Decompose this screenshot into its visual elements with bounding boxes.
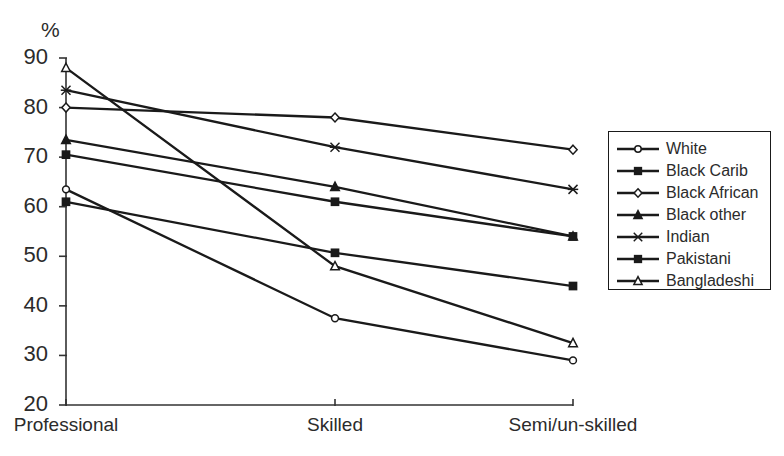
legend-item-white[interactable]: White	[609, 138, 770, 160]
y-axis-tick-label: 70	[4, 143, 48, 169]
legend-item-bangladeshi[interactable]: Bangladeshi	[609, 270, 770, 292]
y-axis-tick-label: 90	[4, 44, 48, 70]
legend-item-indian[interactable]: Indian	[609, 226, 770, 248]
legend-item-black-carib[interactable]: Black Carib	[609, 160, 770, 182]
data-point-filled-square	[635, 168, 642, 175]
legend: WhiteBlack CaribBlack AfricanBlack other…	[608, 131, 771, 290]
data-point-open-circle	[570, 357, 577, 364]
data-point-open-diamond	[331, 113, 339, 122]
x-axis-tick-label: Professional	[0, 414, 176, 436]
series-black-african	[62, 103, 577, 154]
data-point-open-diamond	[62, 103, 70, 112]
data-point-cross	[633, 233, 643, 242]
legend-item-label: Bangladeshi	[666, 272, 754, 290]
legend-item-label: Indian	[666, 228, 710, 246]
y-axis-tick-label: 40	[4, 292, 48, 318]
data-point-cross	[330, 143, 340, 152]
data-point-filled-square	[635, 256, 642, 263]
legend-marker-cross-icon	[616, 228, 660, 246]
legend-marker-open-diamond-icon	[616, 184, 660, 202]
legend-item-label: White	[666, 140, 707, 158]
legend-marker-filled-square-icon	[616, 162, 660, 180]
legend-item-label: Black other	[666, 206, 746, 224]
data-point-open-circle	[63, 186, 70, 193]
data-point-filled-square	[331, 198, 338, 205]
data-point-open-triangle	[62, 63, 71, 71]
x-axis-tick-label: Semi/un-skilled	[463, 414, 683, 436]
legend-item-label: Black African	[666, 184, 758, 202]
data-point-filled-square	[331, 249, 338, 256]
series-black-carib	[62, 198, 576, 289]
legend-marker-open-triangle-icon	[616, 272, 660, 290]
data-point-filled-square	[62, 151, 69, 158]
data-point-cross	[568, 185, 578, 194]
data-point-filled-square	[569, 233, 576, 240]
series-line	[66, 68, 573, 343]
data-point-filled-triangle	[634, 211, 642, 219]
data-point-filled-square	[569, 282, 576, 289]
y-axis-tick-label: 30	[4, 341, 48, 367]
x-axis-tick-label: Skilled	[225, 414, 445, 436]
data-point-open-diamond	[569, 145, 577, 154]
data-point-open-circle	[332, 315, 339, 322]
y-axis-tick-label: 60	[4, 193, 48, 219]
line-chart: % 2030405060708090 ProfessionalSkilledSe…	[0, 0, 784, 456]
data-point-filled-square	[62, 198, 69, 205]
legend-item-label: Black Carib	[666, 162, 748, 180]
legend-marker-open-circle-icon	[616, 140, 660, 158]
data-point-open-diamond	[634, 189, 642, 198]
data-point-open-circle	[635, 146, 641, 152]
y-axis-tick-label: 80	[4, 94, 48, 120]
series-line	[66, 155, 573, 237]
legend-marker-filled-square-icon	[616, 250, 660, 268]
series-line	[66, 202, 573, 286]
data-point-open-triangle	[634, 277, 642, 285]
series-pakistani	[62, 151, 576, 240]
legend-marker-filled-triangle-icon	[616, 206, 660, 224]
legend-item-pakistani[interactable]: Pakistani	[609, 248, 770, 270]
series-lines	[61, 63, 578, 364]
series-line	[66, 140, 573, 237]
legend-item-label: Pakistani	[666, 250, 731, 268]
y-axis-tick-label: 50	[4, 242, 48, 268]
legend-item-black-african[interactable]: Black African	[609, 182, 770, 204]
legend-item-black-other[interactable]: Black other	[609, 204, 770, 226]
